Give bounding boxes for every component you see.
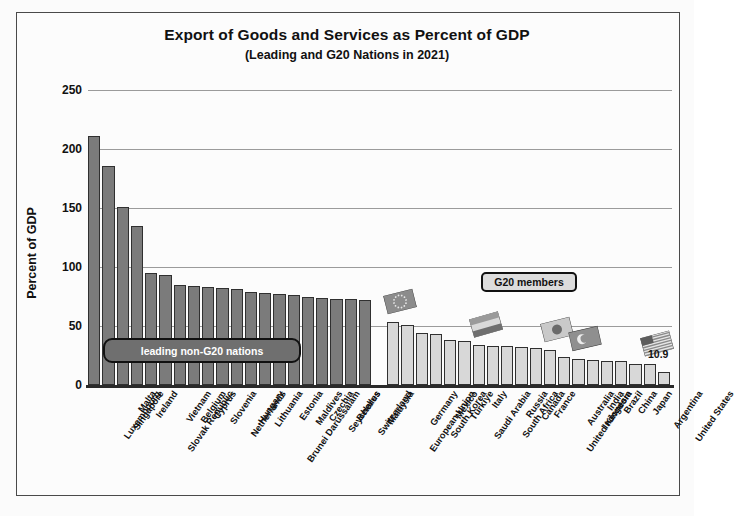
bar-australia [558, 357, 570, 385]
flag-icon-italy [468, 311, 502, 338]
annotation-non-g20: leading non-G20 nations [103, 338, 301, 363]
gridline-250 [88, 90, 672, 91]
bar-canada [515, 347, 527, 385]
bar-netherlands [216, 288, 228, 385]
value-label-united-states: 10.9 [648, 348, 668, 360]
bar-russia [501, 346, 513, 385]
bar-south-korea [416, 333, 428, 385]
bar-seychelles [316, 298, 328, 385]
bar-china [615, 361, 627, 385]
y-tick-100: 100 [36, 260, 82, 274]
x-label-italy: Italy [490, 389, 509, 410]
bar-indonesia [572, 359, 584, 385]
y-tick-250: 250 [36, 83, 82, 97]
y-tick-150: 150 [36, 201, 82, 215]
bar-saudi-arabia [458, 341, 470, 385]
bar-switzerland [345, 299, 357, 385]
bar-belgium [174, 285, 186, 385]
bar-south-africa [487, 346, 499, 385]
flag-icon-european-union [383, 289, 417, 315]
bar-argentina [644, 364, 656, 385]
gridline-200 [88, 149, 672, 150]
bar-vietnam [159, 275, 171, 385]
bar-european-union [387, 322, 399, 385]
bar-india [587, 360, 599, 385]
bar-united-kingdom [544, 350, 556, 385]
bar-slovak-republic [145, 273, 157, 385]
bar-t-rkiye [444, 340, 456, 385]
bar-malaysia [359, 300, 371, 385]
bar-luxembourg [88, 136, 100, 385]
bar-france [530, 348, 542, 385]
x-axis-labels: LuxembourgSingaporeMaltaIrelandSlovak Re… [88, 387, 672, 497]
chart-subtitle: (Leading and G20 Nations in 2021) [0, 48, 694, 62]
bar-brazil [601, 361, 613, 385]
bar-germany [401, 325, 413, 385]
bar-mexico [430, 334, 442, 385]
y-tick-200: 200 [36, 142, 82, 156]
bar-belarus [330, 299, 342, 385]
bar-cyprus [188, 286, 200, 385]
chart-title: Export of Goods and Services as Percent … [0, 26, 694, 44]
bar-slovenia [202, 287, 214, 385]
bar-italy [473, 345, 485, 385]
gridline-150 [88, 208, 672, 209]
y-tick-50: 50 [36, 319, 82, 333]
gridline-100 [88, 267, 672, 268]
bar-japan [629, 364, 641, 385]
annotation-g20: G20 members [481, 272, 577, 292]
flag-icon-indonesia [568, 326, 602, 351]
bar-united-states [658, 372, 670, 385]
y-tick-0: 0 [36, 378, 82, 392]
bar-czechia [302, 297, 314, 386]
